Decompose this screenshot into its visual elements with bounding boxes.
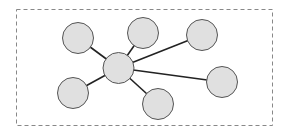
- nodes-group: [58, 18, 238, 120]
- node-n5: [143, 89, 174, 120]
- node-n6: [58, 78, 89, 109]
- network-diagram: [0, 0, 287, 135]
- node-n3: [187, 20, 218, 51]
- node-n1: [63, 23, 94, 54]
- node-n2: [128, 18, 159, 49]
- node-n4: [207, 67, 238, 98]
- hub-node: [103, 53, 134, 84]
